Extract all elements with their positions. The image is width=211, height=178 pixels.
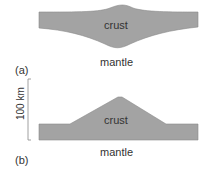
crust-label-a: crust [104,19,128,31]
panel-label-b: (b) [15,154,28,166]
scale-bar [28,79,31,140]
panel-label-a: (a) [15,64,28,76]
mantle-label-a: mantle [100,56,133,68]
scale-bar-label: 100 km [15,87,26,120]
crust-label-b: crust [104,114,128,126]
mantle-label-b: mantle [100,146,133,158]
